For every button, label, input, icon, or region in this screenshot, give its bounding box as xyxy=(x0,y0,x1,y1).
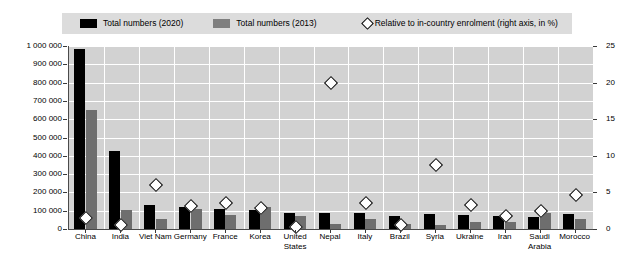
legend-entry-relative-enrolment[interactable]: Relative to in-country enrolment (right … xyxy=(363,19,558,28)
x-axis-category-labels: ChinaIndiaViet NamGermanyFranceKoreaUnit… xyxy=(68,232,592,266)
gridline-horizontal xyxy=(69,119,593,120)
y-axis-right-tick-label: 20 xyxy=(606,79,615,87)
y-axis-right-tick-label: 25 xyxy=(606,42,615,50)
y-axis-left-tick-label: 800 000 xyxy=(33,79,62,87)
bar-total-2020 xyxy=(214,209,225,229)
gridline-vertical xyxy=(348,46,349,229)
y-axis-left-tick xyxy=(63,46,67,47)
y-axis-left-tick-label: 300 000 xyxy=(33,170,62,178)
y-axis-left-tick xyxy=(63,156,67,157)
gridline-vertical xyxy=(209,46,210,229)
gridline-vertical xyxy=(558,46,559,229)
marker-relative-enrolment xyxy=(219,196,233,210)
legend-entry-total-2013[interactable]: Total numbers (2013) xyxy=(213,19,316,28)
x-axis-tick xyxy=(365,230,366,233)
x-axis-tick xyxy=(575,230,576,233)
y-axis-right-tick-label: 15 xyxy=(606,115,615,123)
x-axis-tick xyxy=(85,230,86,233)
y-axis-left-tick-label: 200 000 xyxy=(33,188,62,196)
legend-label-total-2020: Total numbers (2020) xyxy=(103,19,183,28)
y-axis-left-tick xyxy=(63,211,67,212)
gridline-vertical xyxy=(314,46,315,229)
y-axis-right-tick-label: 0 xyxy=(606,225,610,233)
y-axis-right: 0510152025 xyxy=(598,0,638,267)
y-axis-left-tick-label: 400 000 xyxy=(33,152,62,160)
gridline-vertical xyxy=(174,46,175,229)
x-axis-tick xyxy=(540,230,541,233)
gridline-horizontal xyxy=(69,46,593,47)
marker-relative-enrolment xyxy=(359,196,373,210)
gridline-horizontal xyxy=(69,64,593,65)
x-axis-tick xyxy=(400,230,401,233)
y-axis-left-tick-label: 1 000 000 xyxy=(26,42,62,50)
legend-swatch-gray-icon xyxy=(213,19,230,28)
gridline-horizontal xyxy=(69,174,593,175)
gridline-vertical xyxy=(279,46,280,229)
chart-legend: Total numbers (2020) Total numbers (2013… xyxy=(62,13,572,34)
bar-total-2020 xyxy=(319,213,330,229)
bar-total-2020 xyxy=(424,214,435,229)
bar-total-2013 xyxy=(86,110,97,229)
y-axis-left: 0100 000200 000300 000400 000500 000600 … xyxy=(0,0,62,267)
gridline-horizontal xyxy=(69,138,593,139)
y-axis-left-tick-label: 600 000 xyxy=(33,115,62,123)
y-axis-left-tick xyxy=(63,192,67,193)
y-axis-left-tick-label: 700 000 xyxy=(33,97,62,105)
gridline-horizontal xyxy=(69,192,593,193)
bar-total-2020 xyxy=(74,49,85,229)
marker-relative-enrolment xyxy=(429,158,443,172)
x-axis-tick xyxy=(155,230,156,233)
legend-swatch-black-icon xyxy=(80,19,97,28)
y-axis-right-tick-label: 5 xyxy=(606,188,610,196)
bar-total-2013 xyxy=(575,219,586,229)
y-axis-right-tick xyxy=(593,83,597,84)
gridline-vertical xyxy=(523,46,524,229)
y-axis-right-tick xyxy=(593,192,597,193)
gridline-vertical xyxy=(244,46,245,229)
y-axis-left-tick-label: 100 000 xyxy=(33,207,62,215)
marker-relative-enrolment xyxy=(568,188,582,202)
x-axis-tick xyxy=(505,230,506,233)
y-axis-left-tick xyxy=(63,64,67,65)
x-axis-tick xyxy=(260,230,261,233)
gridline-vertical xyxy=(488,46,489,229)
gridline-vertical xyxy=(383,46,384,229)
y-axis-right-tick xyxy=(593,229,597,230)
marker-relative-enrolment xyxy=(149,178,163,192)
legend-diamond-icon xyxy=(361,17,374,30)
y-axis-left-tick xyxy=(63,83,67,84)
y-axis-right-tick xyxy=(593,156,597,157)
x-axis-tick xyxy=(225,230,226,233)
x-axis-tick xyxy=(120,230,121,233)
y-axis-left-tick xyxy=(63,119,67,120)
legend-entry-total-2020[interactable]: Total numbers (2020) xyxy=(80,19,183,28)
bar-total-2013 xyxy=(225,215,236,229)
gridline-vertical xyxy=(418,46,419,229)
bar-total-2013 xyxy=(330,224,341,229)
plot-area xyxy=(68,46,593,230)
y-axis-left-tick-label: 0 xyxy=(58,225,62,233)
gridline-vertical xyxy=(139,46,140,229)
bar-total-2020 xyxy=(144,205,155,229)
gridline-vertical xyxy=(453,46,454,229)
bar-total-2013 xyxy=(156,219,167,229)
x-axis-tick xyxy=(330,230,331,233)
y-axis-left-tick-label: 500 000 xyxy=(33,134,62,142)
bar-total-2013 xyxy=(365,219,376,229)
y-axis-left-tick xyxy=(63,229,67,230)
y-axis-right-tick-label: 10 xyxy=(606,152,615,160)
y-axis-right-tick xyxy=(593,46,597,47)
gridline-vertical xyxy=(104,46,105,229)
legend-label-total-2013: Total numbers (2013) xyxy=(236,19,316,28)
chart-figure: Total numbers (2020) Total numbers (2013… xyxy=(0,0,640,267)
x-axis-category-label: Morocco xyxy=(553,232,596,242)
bar-total-2020 xyxy=(354,213,365,229)
y-axis-left-tick xyxy=(63,138,67,139)
gridline-horizontal xyxy=(69,101,593,102)
marker-relative-enrolment xyxy=(324,76,338,90)
x-axis-tick xyxy=(470,230,471,233)
x-axis-tick xyxy=(190,230,191,233)
y-axis-right-tick xyxy=(593,119,597,120)
x-axis-tick xyxy=(435,230,436,233)
y-axis-left-tick xyxy=(63,101,67,102)
